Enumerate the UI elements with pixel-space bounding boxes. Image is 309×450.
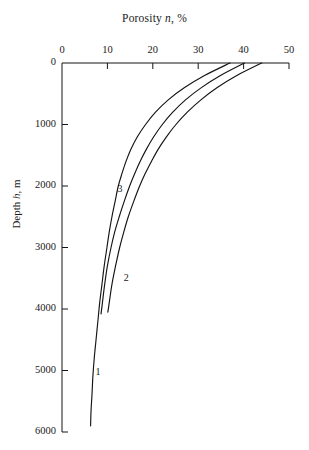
y-axis-tick-label: 1000: [14, 118, 56, 129]
curves-group: [91, 63, 262, 426]
y-axis-tick-label: 4000: [14, 302, 56, 313]
curve-label-3: 3: [117, 183, 122, 194]
chart-figure: Porosity n, % Depth h, m 01020304050 010…: [0, 0, 309, 450]
y-axis-tick-label: 3000: [14, 241, 56, 252]
curve-label-1: 1: [96, 366, 101, 377]
x-axis-tick-label: 0: [47, 44, 77, 55]
x-axis-tick-label: 10: [92, 44, 122, 55]
curve-3: [101, 63, 244, 314]
plot-area: [0, 0, 309, 450]
y-axis-tick-label: 0: [14, 56, 56, 67]
y-axis-tick-label: 2000: [14, 179, 56, 190]
x-axis-tick-label: 40: [229, 44, 259, 55]
x-axis-tick-label: 20: [138, 44, 168, 55]
x-axis-tick-label: 30: [183, 44, 213, 55]
x-axis-tick-label: 50: [274, 44, 304, 55]
curve-label-2: 2: [124, 272, 129, 283]
y-axis-tick-label: 6000: [14, 425, 56, 436]
y-axis-tick-label: 5000: [14, 364, 56, 375]
